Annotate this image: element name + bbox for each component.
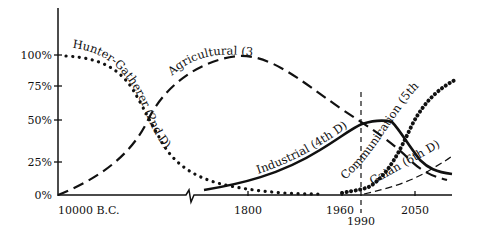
- x-axis: [58, 190, 452, 202]
- x-tick-2050: 2050: [401, 204, 429, 217]
- chart: 100% 75% 50% 25% 0% 10000 B.C. 1800 1960…: [0, 0, 479, 236]
- y-tick-50: 50%: [28, 114, 52, 127]
- y-tick-100: 100%: [21, 49, 52, 62]
- label-hunter-gatherer: Hunter-Gatherer (2nd D): [72, 37, 174, 151]
- x-tick-1800: 1800: [234, 204, 262, 217]
- x-tick-10000bc: 10000 B.C.: [58, 204, 120, 217]
- y-axis: [54, 8, 62, 196]
- series-hunter-gatherer: [66, 56, 318, 194]
- y-tick-75: 75%: [28, 80, 52, 93]
- x-tick-1990: 1990: [347, 215, 375, 228]
- label-industrial: Industrial (4th D): [254, 118, 349, 177]
- y-tick-25: 25%: [28, 156, 52, 169]
- y-tick-0: 0%: [35, 189, 52, 202]
- label-communication: Communication (5th D): [0, 0, 424, 182]
